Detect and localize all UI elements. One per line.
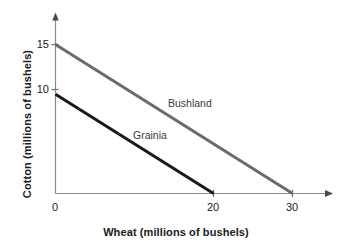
chart-canvas: 15 10 0 20 30 Bushland Grainia Wheat (mi…	[0, 0, 352, 248]
series-line-grainia	[56, 94, 214, 193]
x-tick-label-30: 30	[278, 201, 306, 213]
x-axis-title: Wheat (millions of bushels)	[0, 226, 352, 238]
x-tick-label-20: 20	[199, 201, 227, 213]
y-axis-title: Cotton (millions of bushels)	[18, 0, 36, 248]
x-axis-arrow-icon	[325, 190, 333, 197]
y-axis-arrow-icon	[52, 13, 59, 21]
series-annotation-bushland: Bushland	[168, 97, 212, 109]
x-tick-label-0: 0	[41, 201, 69, 213]
series-line-bushland	[56, 45, 293, 194]
series-annotation-grainia: Grainia	[133, 129, 167, 141]
